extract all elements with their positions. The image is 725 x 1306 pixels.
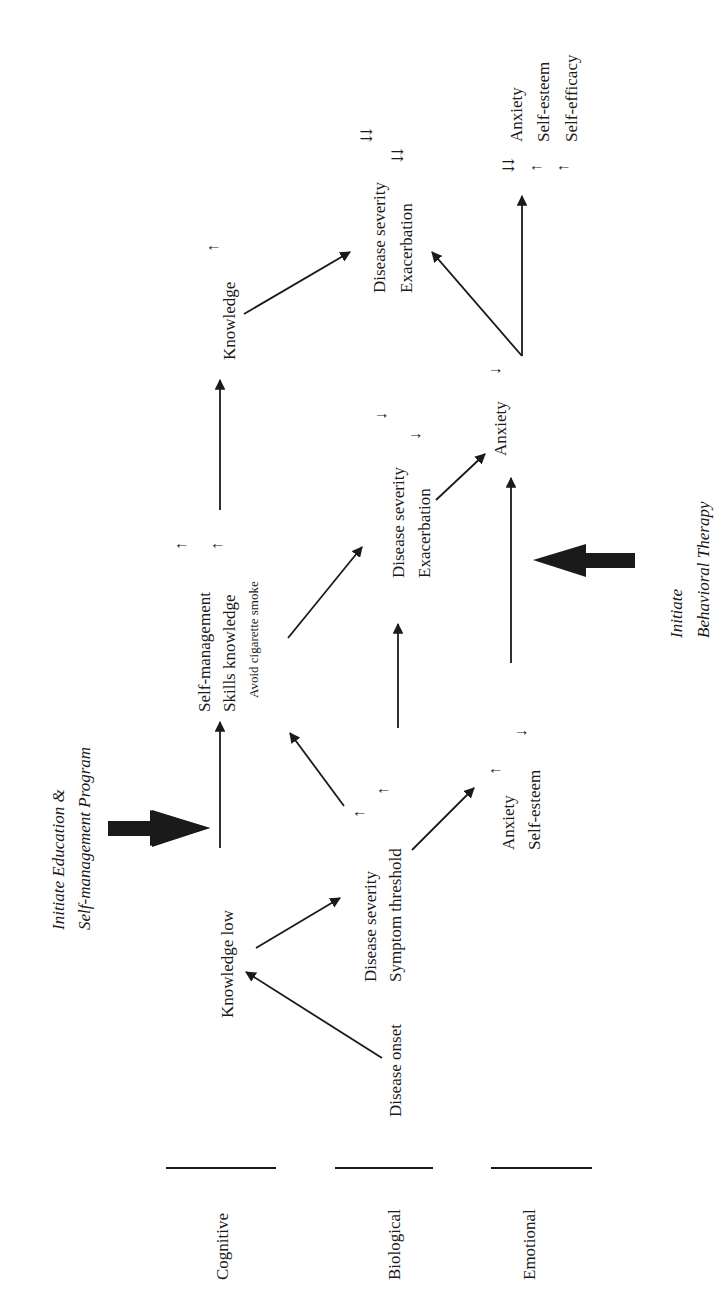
arrow-knowledge-to-severity3 [244,252,350,314]
row-label-emotional: Emotional [520,1209,539,1280]
intervention-behavioral-line2: Behavioral Therapy [694,501,713,638]
indicator-down-icon: ↓ [512,729,529,737]
node-emo1-line1: Anxiety [499,795,518,850]
arrow-selfmgmt-to-severity2 [288,547,362,638]
arrow-severity2-to-anxiety2 [436,454,485,500]
behavioral-intervention-arrow-icon [533,544,635,577]
arrow-anxiety2-to-severity3 [432,252,522,356]
indicator-up-icon: ↑ [204,244,221,252]
node-knowledge-top: Knowledge [220,282,239,360]
node-disease-onset: Disease onset [386,1024,405,1117]
node-severity1-line1: Disease severity [361,871,380,982]
indicator-down-icon: ↓ [372,412,389,420]
intervention-education-line2: Self-management Program [75,747,94,930]
arrow-knowledge-low-to-severity1 [256,898,340,948]
indicator-down-icon: ↓ [486,367,503,375]
indicator-double-down-icon: ⇊ [358,128,375,142]
indicator-double-down-icon: ⇊ [500,158,517,172]
arrow-onset-to-knowledge-low [246,972,382,1058]
indicator-up-icon: ↑ [350,810,367,818]
node-selfmgmt-line1: Self-management [195,592,214,712]
node-emo1-line2: Self-esteem [525,770,544,850]
node-emo3-line2: Self-esteem [534,62,553,142]
node-emo3-line1: Anxiety [507,87,526,142]
indicator-up-icon: ↑ [208,542,225,550]
row-label-cognitive: Cognitive [213,1213,232,1280]
indicator-up-icon: ↑ [554,164,571,172]
node-selfmgmt-line3: Avoid cigarette smoke [246,581,261,698]
indicator-double-down-icon: ⇊ [389,148,406,162]
indicator-up-icon: ↑ [374,787,391,795]
intervention-education-line1: Initiate Education & [49,789,68,931]
indicator-down-icon: ↓ [406,432,423,440]
indicator-up-icon: ↑ [172,542,189,550]
node-severity2-line2: Exacerbation [415,488,434,578]
arrow-severity1-to-selfmgmt [290,733,344,806]
education-intervention-arrow-icon [108,810,210,846]
arrow-severity1-to-emo1 [412,788,474,850]
indicator-up-icon: ↑ [486,767,503,775]
node-emo3-line3: Self-efficacy [562,54,581,142]
node-severity1-line2: Symptom threshold [386,848,405,982]
node-severity2-line1: Disease severity [389,467,408,578]
node-severity3-line2: Exacerbation [397,203,416,293]
row-label-biological: Biological [385,1209,404,1280]
node-anxiety2: Anxiety [491,401,510,456]
node-knowledge-low: Knowledge low [218,909,237,1018]
diagram-canvas: Cognitive Biological Emotional Disease o… [0,0,725,1306]
node-severity3-line1: Disease severity [370,182,389,293]
indicator-up-icon: ↑ [527,164,544,172]
intervention-behavioral-line1: Initiate [667,588,686,639]
node-selfmgmt-line2: Skills knowledge [220,594,239,712]
